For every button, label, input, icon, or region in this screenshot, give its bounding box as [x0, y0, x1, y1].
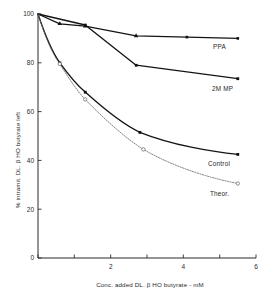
theor-curve	[38, 14, 238, 184]
y-tick-label-80: 80	[27, 59, 35, 66]
control-marker-2	[84, 91, 87, 94]
control-curve	[38, 14, 238, 154]
series-theor: Theor.	[38, 14, 240, 197]
y-axis-title: % intramit. DL. β HO butyrate left	[14, 112, 21, 208]
mmp-marker-2	[135, 64, 138, 67]
y-tick-group: 0 20 40 60 80 100	[23, 10, 41, 261]
x-tick-group: 2 4 6	[38, 255, 258, 271]
series-2m-mp: 2M MP	[38, 14, 239, 92]
theor-marker-1	[58, 62, 61, 65]
series-ppa: PPA	[38, 14, 239, 50]
control-marker-4	[236, 153, 239, 156]
series-label-ppa: PPA	[213, 43, 226, 50]
y-tick-label-100: 100	[23, 10, 34, 17]
line-chart-canvas: 0 20 40 60 80 100 2 4 6 Conc. added DL. …	[0, 0, 264, 300]
ppa-curve	[38, 14, 238, 38]
theor-marker-2	[84, 98, 87, 101]
y-tick-label-60: 60	[27, 108, 35, 115]
series-label-control: Control	[208, 160, 230, 167]
mmp-curve	[38, 14, 238, 79]
series-label-theor: Theor.	[210, 190, 229, 197]
y-tick-label-20: 20	[27, 206, 35, 213]
y-tick-label-0: 0	[30, 254, 34, 261]
x-tick-label-4: 4	[181, 263, 185, 270]
chart-figure: 0 20 40 60 80 100 2 4 6 Conc. added DL. …	[0, 0, 264, 300]
ppa-marker-4	[186, 36, 189, 39]
theor-marker-3	[142, 148, 145, 151]
control-marker-3	[139, 131, 142, 134]
x-axis-title: Conc. added DL. β HO butyrate - mM	[96, 281, 204, 288]
y-tick-label-40: 40	[27, 157, 35, 164]
ppa-marker-5	[237, 37, 240, 40]
x-tick-label-2: 2	[109, 263, 113, 270]
x-tick-label-6: 6	[254, 263, 258, 270]
mmp-marker-3	[236, 77, 239, 80]
axis-group	[38, 14, 256, 258]
theor-marker-4	[236, 182, 239, 185]
mmp-marker-1	[84, 24, 87, 27]
series-control: Control	[38, 14, 239, 167]
series-label-2m-mp: 2M MP	[212, 85, 233, 92]
